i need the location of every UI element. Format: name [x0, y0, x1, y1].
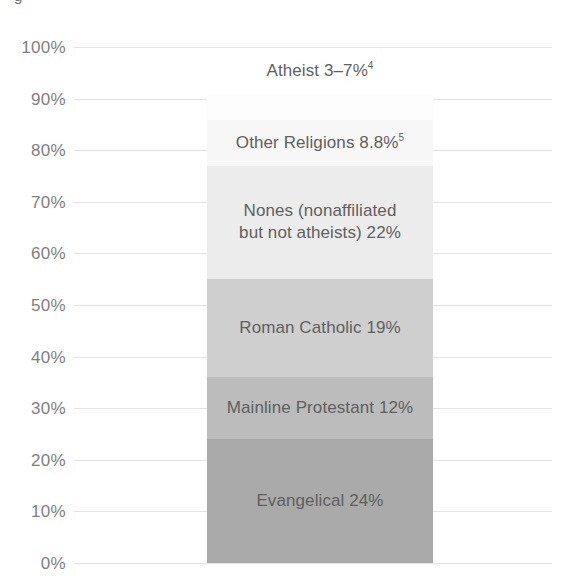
- stacked-bar: Evangelical 24%Mainline Protestant 12%Ro…: [207, 47, 433, 563]
- segment-label: Mainline Protestant 12%: [223, 397, 418, 419]
- segment-label: Evangelical 24%: [252, 490, 387, 512]
- bar-segment-atheist[interactable]: [207, 94, 433, 120]
- stacked-bar-chart: Evangelical 24%Mainline Protestant 12%Ro…: [0, 0, 575, 586]
- plot-area: Evangelical 24%Mainline Protestant 12%Ro…: [0, 47, 575, 563]
- bar-segment-nones-nonaffiliated-but-not-atheists[interactable]: Nones (nonaffiliatedbut not atheists) 22…: [207, 166, 433, 280]
- bar-segment-evangelical[interactable]: Evangelical 24%: [207, 439, 433, 563]
- y-axis-tick-label: 90%: [4, 90, 66, 107]
- bar-segment-mainline-protestant[interactable]: Mainline Protestant 12%: [207, 377, 433, 439]
- y-axis-tick-label: 50%: [4, 297, 66, 314]
- y-axis-tick-label: 0%: [4, 555, 66, 572]
- gridline-0: [74, 563, 552, 564]
- footnote-marker: 4: [368, 60, 374, 71]
- bar-segment-other-religions[interactable]: Other Religions 8.8%5: [207, 120, 433, 165]
- y-axis-tick-label: 20%: [4, 451, 66, 468]
- segment-label: Nones (nonaffiliatedbut not atheists) 22…: [235, 200, 405, 245]
- y-axis-tick-label: 30%: [4, 400, 66, 417]
- bar-segment-roman-catholic[interactable]: Roman Catholic 19%: [207, 279, 433, 377]
- segment-label: Roman Catholic 19%: [235, 317, 405, 339]
- y-axis: 100%90%80%70%60%50%40%30%20%10%0%: [0, 47, 66, 563]
- y-axis-tick-label: 10%: [4, 503, 66, 520]
- y-axis-tick-label: 60%: [4, 245, 66, 262]
- segment-label-atheist: Atheist 3–7%4: [207, 61, 433, 81]
- y-axis-tick-label: 80%: [4, 142, 66, 159]
- y-axis-tick-label: 100%: [4, 39, 66, 56]
- y-axis-tick-label: 70%: [4, 193, 66, 210]
- footnote-marker: 5: [398, 132, 404, 143]
- segment-label: Other Religions 8.8%5: [232, 132, 408, 154]
- y-axis-tick-label: 40%: [4, 348, 66, 365]
